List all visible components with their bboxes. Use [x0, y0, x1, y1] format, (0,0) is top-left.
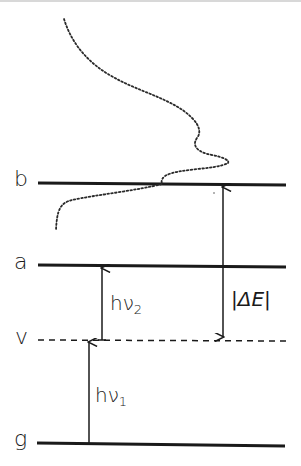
stray-dot — [213, 192, 215, 194]
hv1-label: hν1 — [95, 385, 127, 412]
level-label-b: b — [14, 168, 28, 190]
level-label-g: g — [14, 428, 27, 450]
hv1-label-main: hν — [95, 383, 119, 407]
hv2-label-sub: 2 — [134, 302, 142, 317]
hv2-label-main: hν — [110, 291, 134, 315]
level-a-line — [38, 265, 286, 267]
level-g-line — [37, 443, 285, 446]
level-label-a: a — [14, 251, 27, 273]
level-v-line — [38, 340, 286, 341]
delta-e-label: |ΔE| — [231, 289, 271, 309]
lineshape-curve — [56, 19, 228, 230]
hv1-label-sub: 1 — [119, 394, 127, 409]
level-label-v: v — [15, 326, 28, 348]
energy-level-diagram — [0, 0, 301, 466]
hv2-label: hν2 — [110, 293, 142, 320]
